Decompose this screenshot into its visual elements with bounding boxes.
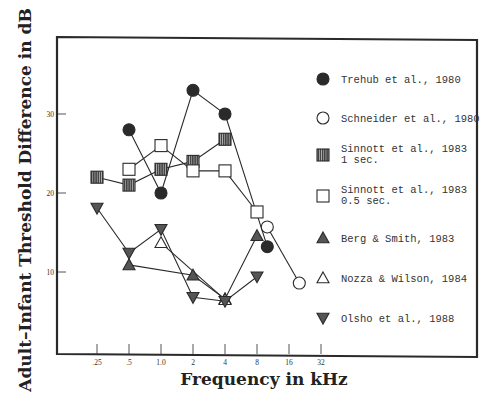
legend-item: Sinnott et al., 19831 sec.: [317, 143, 467, 166]
legend-item: Berg & Smith, 1983: [317, 232, 454, 245]
x-tick-label: 8: [255, 358, 259, 367]
hatched-square-marker: [155, 163, 167, 175]
legend: Trehub et al., 1980Schneider et al., 198…: [317, 73, 480, 325]
filled-inverted-triangle-marker: [251, 272, 263, 283]
hatched-square-marker: [91, 171, 103, 183]
y-axis-title: Adult–Infant Threshold Difference in dB: [15, 8, 35, 393]
open-square-marker: [155, 140, 167, 152]
open-circle-marker: [293, 277, 305, 289]
filled-triangle-marker: [123, 259, 135, 270]
open-triangle-marker: [317, 272, 329, 283]
open-square-marker: [187, 165, 199, 177]
filled-inverted-triangle-marker: [123, 248, 135, 259]
legend-label: 1 sec.: [341, 154, 379, 166]
x-axis-title: Frequency in kHz: [180, 369, 348, 389]
legend-label: Berg & Smith, 1983: [341, 233, 454, 245]
open-square-marker: [251, 206, 263, 218]
legend-label: 0.5 sec.: [341, 195, 391, 207]
x-tick-label: 1.0: [156, 358, 166, 367]
hatched-square-marker: [219, 133, 231, 145]
filled-inverted-triangle-marker: [91, 203, 103, 214]
open-circle-marker: [317, 112, 329, 124]
y-tick-label: 20: [47, 189, 55, 198]
chart: 102030 .25.51.02481632 Trehub et al., 19…: [0, 0, 495, 403]
filled-circle-marker: [155, 187, 167, 199]
legend-label: Olsho et al., 1988: [341, 313, 454, 325]
series-line: [267, 227, 299, 283]
x-tick-label: 16: [285, 358, 293, 367]
filled-triangle-marker: [251, 230, 263, 241]
y-tick-label: 30: [47, 110, 55, 119]
legend-item: Olsho et al., 1988: [317, 313, 454, 325]
filled-circle-marker: [261, 241, 273, 253]
legend-item: Sinnott et al., 19830.5 sec.: [317, 184, 467, 207]
open-square-marker: [317, 190, 329, 202]
x-tick-label: 4: [223, 358, 227, 367]
y-tick-label: 10: [47, 268, 55, 277]
x-tick-label: 32: [317, 358, 325, 367]
x-tick-label: 2: [191, 358, 195, 367]
filled-triangle-marker: [317, 232, 329, 243]
open-square-marker: [219, 165, 231, 177]
series-markers: [91, 84, 305, 307]
legend-item: Nozza & Wilson, 1984: [317, 272, 467, 285]
series-line: [97, 208, 257, 301]
filled-inverted-triangle-marker: [155, 225, 167, 236]
filled-circle-marker: [317, 73, 329, 85]
open-square-marker: [123, 163, 135, 175]
filled-circle-marker: [187, 84, 199, 96]
series-markers-group: [123, 140, 263, 218]
series-line: [129, 236, 257, 299]
x-tick-label: .25: [92, 358, 102, 367]
legend-label: Trehub et al., 1980: [341, 74, 461, 86]
filled-inverted-triangle-marker: [317, 313, 329, 324]
hatched-square-marker: [123, 179, 135, 191]
legend-item: Trehub et al., 1980: [317, 73, 461, 86]
filled-circle-marker: [123, 124, 135, 136]
legend-label: Schneider et al., 1980: [341, 113, 480, 125]
hatched-square-marker: [317, 149, 329, 161]
legend-item: Schneider et al., 1980: [317, 112, 480, 125]
filled-circle-marker: [219, 108, 231, 120]
x-tick-label: .5: [126, 358, 132, 367]
legend-label: Nozza & Wilson, 1984: [341, 273, 467, 285]
open-circle-marker: [261, 221, 273, 233]
